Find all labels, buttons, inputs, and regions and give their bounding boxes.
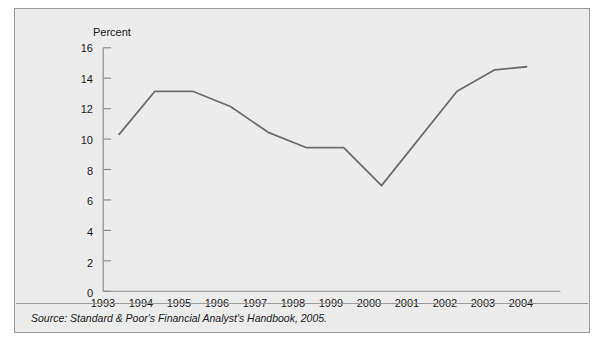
figure-container: Percent 16 14 12 10: [0, 0, 605, 346]
y-tick-4: 4: [67, 226, 93, 238]
y-tick-6: 6: [67, 195, 93, 207]
source-note: Source: Standard & Poor's Financial Anal…: [31, 312, 327, 324]
y-tick-2: 2: [67, 257, 93, 269]
y-axis-ticks: [103, 48, 111, 291]
figure-frame: Percent 16 14 12 10: [14, 8, 590, 333]
axis-lines: [103, 48, 560, 291]
line-chart-plot: [15, 9, 589, 332]
y-tick-12: 12: [67, 103, 93, 115]
source-divider: [16, 303, 588, 304]
y-tick-14: 14: [67, 73, 93, 85]
y-tick-8: 8: [67, 165, 93, 177]
y-tick-16: 16: [67, 42, 93, 54]
figure-caption-partial: [14, 0, 434, 7]
data-line: [119, 67, 526, 186]
y-tick-10: 10: [67, 134, 93, 146]
